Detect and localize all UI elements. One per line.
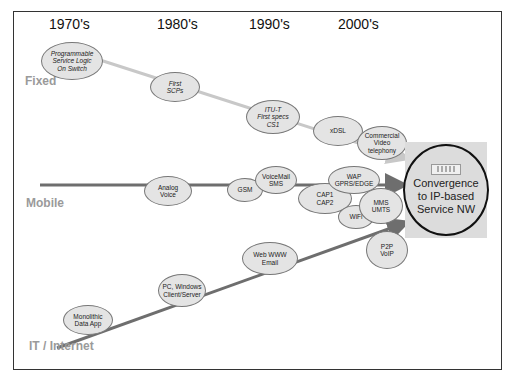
track-label-fixed: Fixed	[25, 74, 56, 88]
decade-1980s: 1980's	[157, 16, 198, 32]
server-icon	[431, 164, 461, 175]
node-commercial-video-telephony: Commercial Video telephony	[357, 126, 407, 160]
node-first-scps: First SCPs	[150, 72, 200, 102]
convergence-ellipse: Convergence to IP-based Service NW	[403, 144, 489, 236]
node-xdsl: xDSL	[313, 116, 363, 146]
convergence-label: Convergence to IP-based Service NW	[413, 177, 478, 217]
it-line	[57, 223, 405, 348]
node-analog-voice: Analog Voice	[144, 176, 192, 206]
node-monolithic-data-app: Monolithic Data App	[63, 305, 113, 335]
decade-2000s: 2000's	[338, 16, 379, 32]
node-itu-t-cs1: ITU-T First specs CS1	[246, 100, 300, 134]
track-label-it: IT / Internet	[29, 339, 94, 353]
node-voicemail-sms: VoiceMail SMS	[255, 166, 297, 194]
node-p2p-voip: P2P VoIP	[366, 231, 408, 269]
node-programmable-service-logic: Programmable Service Logic On Switch	[41, 42, 103, 80]
node-web-www-email: Web WWW Email	[242, 242, 298, 275]
node-mms-umts: MMS UMTS	[359, 188, 403, 224]
decade-1970s: 1970's	[49, 16, 90, 32]
node-pc-windows-client-server: PC, Windows Client/Server	[158, 274, 206, 307]
track-label-mobile: Mobile	[26, 196, 64, 210]
decade-1990s: 1990's	[249, 16, 290, 32]
